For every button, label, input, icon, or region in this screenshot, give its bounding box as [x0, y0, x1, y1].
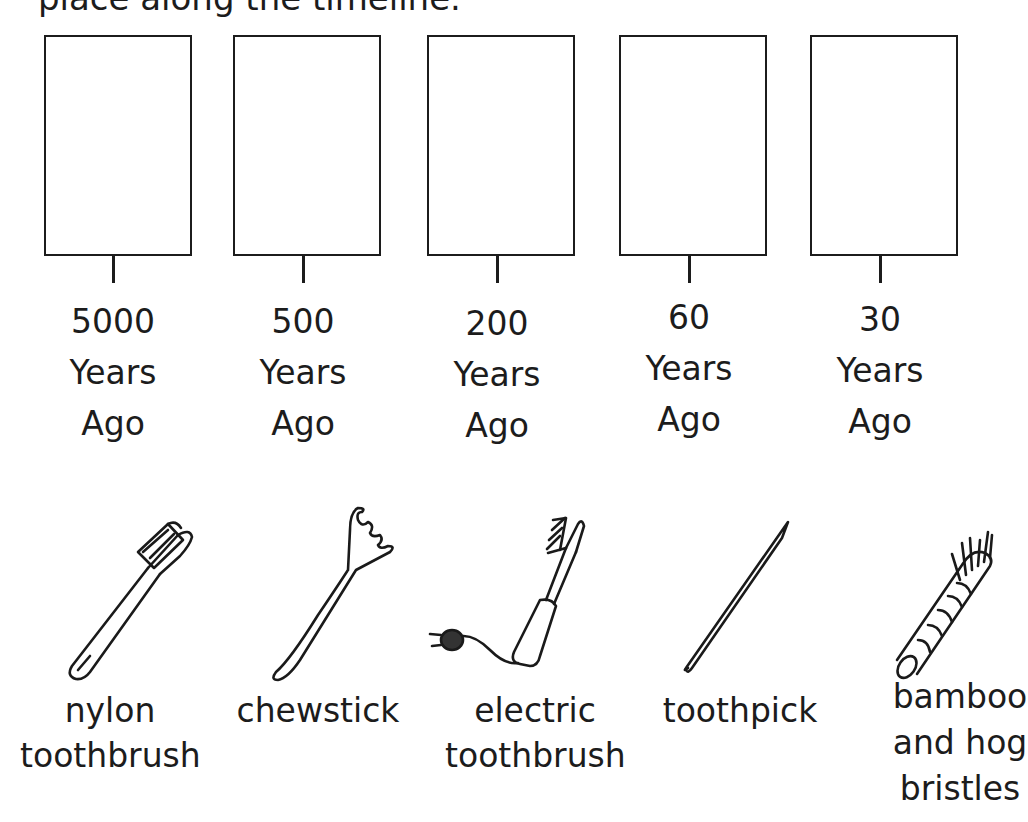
bamboo-brush-icon — [0, 0, 1, 1]
timeline-label-500: 500 Years Ago — [223, 296, 383, 449]
timeline-value: 30 — [800, 294, 960, 345]
timeline-unit: Years — [609, 343, 769, 394]
item-label-chewstick: chewstick — [228, 688, 408, 733]
timeline-value: 60 — [609, 292, 769, 343]
item-label-bamboo-brush: bamboo and hog bristles — [870, 674, 1028, 812]
timeline-slot-200[interactable] — [427, 35, 575, 256]
timeline-suffix: Ago — [223, 398, 383, 449]
timeline-unit: Years — [417, 349, 577, 400]
timeline-slot-5000[interactable] — [44, 35, 192, 256]
timeline-unit: Years — [223, 347, 383, 398]
timeline-tick — [879, 256, 882, 283]
timeline-tick — [112, 256, 115, 283]
item-label-line: electric — [445, 688, 625, 733]
item-label-nylon-toothbrush: nylon toothbrush — [20, 688, 200, 778]
timeline-label-60: 60 Years Ago — [609, 292, 769, 445]
timeline-suffix: Ago — [609, 394, 769, 445]
timeline-value: 5000 — [33, 296, 193, 347]
item-label-line: toothbrush — [445, 733, 625, 778]
timeline-label-200: 200 Years Ago — [417, 298, 577, 451]
timeline-slot-30[interactable] — [810, 35, 958, 256]
instructions-text: place along the timeline. — [38, 0, 461, 18]
timeline-unit: Years — [33, 347, 193, 398]
timeline-tick — [302, 256, 305, 283]
timeline-tick — [688, 256, 691, 283]
item-label-toothpick: toothpick — [650, 688, 830, 733]
item-label-electric-toothbrush: electric toothbrush — [445, 688, 625, 778]
timeline-tick — [496, 256, 499, 283]
timeline-value: 200 — [417, 298, 577, 349]
timeline-slot-500[interactable] — [233, 35, 381, 256]
item-label-line: nylon — [20, 688, 200, 733]
timeline-suffix: Ago — [33, 398, 193, 449]
item-label-line: toothpick — [650, 688, 830, 733]
timeline-label-30: 30 Years Ago — [800, 294, 960, 447]
item-label-line: toothbrush — [20, 733, 200, 778]
item-label-line: bristles — [870, 766, 1028, 812]
item-label-line: chewstick — [228, 688, 408, 733]
item-label-line: and hog — [870, 720, 1028, 766]
item-label-line: bamboo — [870, 674, 1028, 720]
timeline-suffix: Ago — [800, 396, 960, 447]
timeline-suffix: Ago — [417, 400, 577, 451]
timeline-unit: Years — [800, 345, 960, 396]
timeline-value: 500 — [223, 296, 383, 347]
timeline-slot-60[interactable] — [619, 35, 767, 256]
timeline-label-5000: 5000 Years Ago — [33, 296, 193, 449]
